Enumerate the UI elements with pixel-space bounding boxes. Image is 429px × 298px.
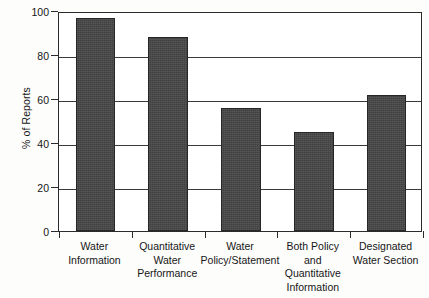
y-tick-mark — [51, 55, 58, 56]
y-tick-label: 100 — [31, 5, 49, 19]
x-axis-labels: WaterInformationQuantitativeWaterPerform… — [58, 240, 422, 298]
y-tick-mark — [51, 11, 58, 12]
y-tick-mark — [51, 99, 58, 100]
x-axis-category-line: Information — [265, 281, 361, 295]
x-tick-mark — [59, 231, 60, 238]
y-tick-label: 20 — [37, 181, 49, 195]
plot-area — [58, 12, 422, 232]
x-tick-mark — [132, 231, 133, 238]
y-tick: 80 — [0, 49, 58, 63]
bar-chart-figure: % of Reports 020406080100 WaterInformati… — [0, 0, 429, 298]
y-tick-label: 0 — [43, 225, 49, 239]
bar — [294, 132, 334, 231]
y-tick: 40 — [0, 137, 58, 151]
x-axis-category-line: Quantitative — [265, 267, 361, 281]
x-axis-category-line: Performance — [119, 267, 215, 281]
x-tick-mark — [205, 231, 206, 238]
x-axis-category-line: Water Section — [338, 254, 429, 268]
bar — [367, 95, 407, 231]
y-tick-label: 40 — [37, 137, 49, 151]
y-tick-mark — [51, 187, 58, 188]
y-tick: 20 — [0, 181, 58, 195]
y-tick-label: 60 — [37, 93, 49, 107]
y-tick: 60 — [0, 93, 58, 107]
x-tick-mark — [277, 231, 278, 238]
x-axis-category-line: Designated — [338, 240, 429, 254]
x-tick-mark — [423, 231, 424, 238]
bar — [76, 18, 116, 231]
x-tick-mark — [350, 231, 351, 238]
y-tick-label: 80 — [37, 49, 49, 63]
y-tick: 0 — [0, 225, 58, 239]
bar — [221, 108, 261, 231]
y-tick: 100 — [0, 5, 58, 19]
y-tick-mark — [51, 231, 58, 232]
x-axis-category-label: DesignatedWater Section — [338, 240, 429, 267]
bar — [148, 37, 188, 231]
y-tick-mark — [51, 143, 58, 144]
